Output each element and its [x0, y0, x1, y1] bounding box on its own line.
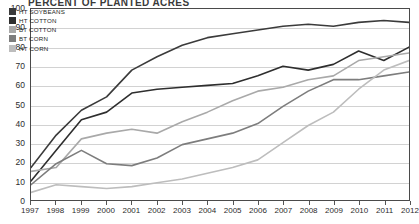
legend-item-ht-cotton[interactable]: HT COTTON — [9, 16, 65, 25]
x-axis-tickmark-1998 — [55, 201, 56, 205]
x-axis-tickmark-1999 — [81, 201, 82, 205]
x-axis-tick-2011: 2011 — [376, 206, 393, 215]
y-axis-tick-20: 20 — [16, 157, 25, 167]
legend-swatch-icon — [9, 8, 16, 15]
y-axis-tick-30: 30 — [16, 138, 25, 148]
x-axis-tick-2005: 2005 — [224, 206, 242, 215]
x-axis-labels: 1997199819992000200120022003200420052006… — [30, 206, 410, 222]
plot-area — [30, 8, 410, 201]
x-axis-tick-2000: 2000 — [97, 206, 115, 215]
x-axis-tick-2012: 2012 — [401, 206, 419, 215]
legend-item-label: HT SOYBEANS — [19, 8, 65, 15]
legend-swatch-icon — [9, 45, 16, 52]
x-axis-tick-2008: 2008 — [300, 206, 318, 215]
y-axis-tick-50: 50 — [16, 100, 25, 110]
x-axis-tickmark-2012 — [410, 201, 411, 205]
legend-item-ht-corn[interactable]: HT CORN — [9, 44, 65, 53]
x-axis-tickmark-2005 — [233, 201, 234, 205]
x-axis-tick-2002: 2002 — [148, 206, 166, 215]
legend-item-bt-cotton[interactable]: BT COTTON — [9, 25, 65, 34]
line-chart-svg — [31, 9, 409, 200]
legend-swatch-icon — [9, 26, 16, 33]
x-axis-tick-2004: 2004 — [198, 206, 216, 215]
x-axis-tickmark-2003 — [182, 201, 183, 205]
x-axis-tickmark-2009 — [334, 201, 335, 205]
x-axis-tick-1999: 1999 — [72, 206, 90, 215]
x-axis-tickmark-2011 — [385, 201, 386, 205]
series-layer — [31, 9, 409, 200]
x-axis-tickmark-2000 — [106, 201, 107, 205]
x-axis-tick-2007: 2007 — [274, 206, 292, 215]
y-axis-tick-60: 60 — [16, 80, 25, 90]
x-axis-tick-2001: 2001 — [122, 206, 140, 215]
x-axis-tickmark-2010 — [359, 201, 360, 205]
chart-legend: HT SOYBEANSHT COTTONBT COTTONBT CORNHT C… — [6, 5, 68, 56]
x-axis-tickmark-2004 — [207, 201, 208, 205]
series-line-bt-corn — [31, 72, 409, 185]
x-axis-tickmark-2008 — [309, 201, 310, 205]
x-axis-tickmark-2001 — [131, 201, 132, 205]
legend-item-label: HT COTTON — [19, 17, 57, 24]
y-axis-tick-0: 0 — [20, 196, 25, 206]
x-axis-tick-1998: 1998 — [46, 206, 64, 215]
legend-item-label: BT COTTON — [19, 26, 56, 33]
legend-item-ht-soybeans[interactable]: HT SOYBEANS — [9, 7, 65, 16]
x-axis-tickmark-1997 — [30, 201, 31, 205]
x-axis-tickmark-2002 — [157, 201, 158, 205]
legend-swatch-icon — [9, 35, 16, 42]
x-axis-tick-2010: 2010 — [350, 206, 368, 215]
x-axis-tickmark-2007 — [283, 201, 284, 205]
series-line-ht-cotton — [31, 47, 409, 181]
legend-item-bt-corn[interactable]: BT CORN — [9, 35, 65, 44]
x-axis-tick-2006: 2006 — [249, 206, 267, 215]
legend-item-label: HT CORN — [19, 45, 48, 52]
y-axis-tick-70: 70 — [16, 61, 25, 71]
y-axis-tick-40: 40 — [16, 119, 25, 129]
legend-item-label: BT CORN — [19, 35, 48, 42]
x-axis-tickmark-2006 — [258, 201, 259, 205]
legend-swatch-icon — [9, 17, 16, 24]
y-axis-tick-10: 10 — [16, 177, 25, 187]
x-axis-tick-2003: 2003 — [173, 206, 191, 215]
x-axis-tick-2009: 2009 — [325, 206, 343, 215]
x-axis-tick-1997: 1997 — [21, 206, 39, 215]
